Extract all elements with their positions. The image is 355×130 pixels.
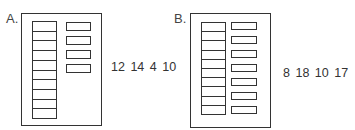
right-slot [66,22,91,31]
panel-a-numbers: 12 14 4 10 [111,60,176,74]
panel-b-label: B. [174,11,186,26]
panel-a-right-stack [66,22,91,73]
right-slot [231,106,257,114]
panel-a-left-stack [32,21,57,119]
right-slot [231,78,257,86]
panel-b-box [190,13,271,128]
panel-b-right-stack [231,22,257,114]
right-slot [66,50,91,59]
right-slot [231,50,257,58]
panel-b-numbers: 8 18 10 17 [283,66,348,80]
right-slot [231,36,257,44]
left-cell [32,108,57,119]
right-slot [231,92,257,100]
panel-b-left-stack [201,22,226,115]
right-slot [66,36,91,45]
right-slot [231,22,257,30]
right-slot [231,64,257,72]
panel-a-box [21,13,102,126]
left-cell [201,105,226,116]
right-slot [66,64,91,73]
panel-a-label: A. [6,11,18,26]
